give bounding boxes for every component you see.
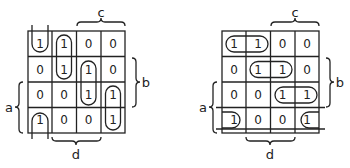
right-cell-r1c2: 1 xyxy=(279,63,287,77)
left-cell-r2c0: 0 xyxy=(36,88,44,102)
left-cell-r3c1: 0 xyxy=(60,113,68,127)
right-cell-r3c3: 1 xyxy=(303,113,311,127)
left-label-b: b xyxy=(142,75,150,90)
right-cell-r0c0: 1 xyxy=(230,37,238,51)
right-cell-r0c2: 0 xyxy=(279,37,287,51)
left-cell-r0c1: 1 xyxy=(60,37,68,51)
right-cell-r0c1: 1 xyxy=(254,37,262,51)
left-karnaugh-map xyxy=(15,18,140,145)
left-brace-a xyxy=(15,82,23,133)
left-cell-r3c2: 0 xyxy=(85,113,93,127)
left-label-d: d xyxy=(72,147,80,162)
right-label-b: b xyxy=(336,75,344,90)
right-cell-r0c3: 0 xyxy=(303,37,311,51)
left-cell-r2c2: 1 xyxy=(85,88,93,102)
right-brace-a xyxy=(209,82,217,133)
left-cell-values: 1 1 0 0 0 1 1 0 0 0 1 1 1 0 0 1 c b a d xyxy=(5,5,150,162)
right-label-c: c xyxy=(291,5,298,20)
left-cell-r0c2: 0 xyxy=(85,37,93,51)
left-cell-r0c3: 0 xyxy=(109,37,117,51)
right-cell-r2c0: 0 xyxy=(230,88,238,102)
right-cell-r2c2: 1 xyxy=(279,88,287,102)
left-cell-r3c0: 1 xyxy=(36,113,44,127)
karnaugh-maps-figure: 1 1 0 0 0 1 1 0 0 0 1 1 1 0 0 1 c b a d xyxy=(0,0,350,168)
left-label-a: a xyxy=(5,100,13,115)
left-brace-b xyxy=(132,58,140,107)
right-cell-r1c1: 1 xyxy=(254,63,262,77)
left-label-c: c xyxy=(97,5,104,20)
right-cell-r3c2: 0 xyxy=(279,113,287,127)
left-cell-r3c3: 1 xyxy=(109,113,117,127)
left-cell-r2c3: 1 xyxy=(109,88,117,102)
right-label-d: d xyxy=(266,147,274,162)
right-cell-r1c0: 0 xyxy=(230,63,238,77)
right-brace-b xyxy=(326,58,334,107)
left-cell-r2c1: 0 xyxy=(60,88,68,102)
left-cell-r1c3: 0 xyxy=(109,63,117,77)
right-cell-values: 1 1 0 0 0 1 1 0 0 0 1 1 1 0 0 1 c b a d xyxy=(199,5,344,162)
right-cell-r3c1: 0 xyxy=(254,113,262,127)
left-cell-r1c2: 1 xyxy=(85,63,93,77)
left-cell-r1c1: 1 xyxy=(60,63,68,77)
left-cell-r1c0: 0 xyxy=(36,63,44,77)
right-cell-r1c3: 0 xyxy=(303,63,311,77)
right-cell-r2c3: 1 xyxy=(303,88,311,102)
right-karnaugh-map xyxy=(209,18,334,145)
left-brace-d xyxy=(52,137,101,145)
right-label-a: a xyxy=(199,100,207,115)
right-cell-r3c0: 1 xyxy=(230,113,238,127)
left-cell-r0c0: 1 xyxy=(36,37,44,51)
right-brace-d xyxy=(246,137,295,145)
right-cell-r2c1: 0 xyxy=(254,88,262,102)
